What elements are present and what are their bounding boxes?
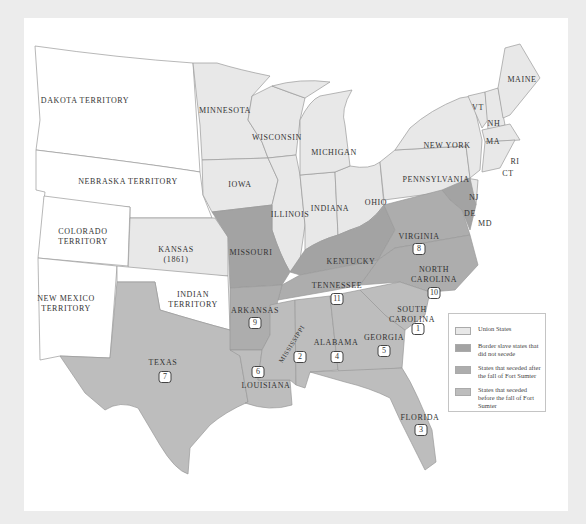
label-new-york: NEW YORK (423, 141, 470, 151)
legend-item-union: Union States (455, 325, 544, 335)
legend-item-seceded-after: States that seceded after the fall of Fo… (455, 364, 544, 380)
label-michigan: MICHIGAN (311, 148, 357, 158)
label-georgia: GEORGIA (364, 333, 404, 343)
secession-number-virginia: 8 (413, 243, 426, 255)
label-missouri: MISSOURI (229, 248, 272, 258)
label-alabama: ALABAMA (314, 338, 359, 348)
label-nebraska-territory: NEBRASKA TERRITORY (78, 177, 178, 187)
label-kansas: KANSAS(1861) (158, 245, 194, 265)
civil-war-states-map (0, 0, 586, 524)
label-illinois: ILLINOIS (271, 210, 310, 220)
label-louisiana: LOUISIANA (242, 381, 291, 391)
label-texas: TEXAS (149, 358, 178, 368)
label-new-jersey: NJ (469, 193, 479, 203)
label-florida: FLORIDA (401, 413, 440, 423)
secession-number-texas: 7 (159, 371, 172, 383)
label-virginia: VIRGINIA (398, 232, 439, 242)
label-tennessee: TENNESSEE (312, 281, 362, 291)
label-north-carolina: NORTHCAROLINA (411, 265, 457, 285)
legend-item-border-slave: Border slave states that did not secede (455, 342, 544, 358)
secession-number-alabama: 4 (331, 351, 344, 363)
label-colorado-territory: COLORADOTERRITORY (58, 227, 108, 247)
label-kentucky: KENTUCKY (327, 257, 376, 267)
label-wisconsin: WISCONSIN (252, 133, 302, 143)
label-connecticut: CT (502, 169, 513, 179)
secession-number-south-carolina: 1 (412, 323, 425, 335)
legend-swatch-border-slave (455, 344, 471, 352)
label-new-mexico-territory: NEW MEXICOTERRITORY (37, 294, 95, 314)
label-ohio: OHIO (365, 198, 387, 208)
secession-number-north-carolina: 10 (428, 287, 441, 299)
legend-item-seceded-before: States that seceded before the fall of F… (455, 386, 544, 410)
label-arkansas: ARKANSAS (231, 306, 279, 316)
label-minnesota: MINNESOTA (199, 106, 251, 116)
label-indian-territory: INDIANTERRITORY (168, 290, 218, 310)
legend-label-seceded-after: States that seceded after the fall of Fo… (478, 364, 544, 380)
label-iowa: IOWA (228, 180, 251, 190)
secession-number-tennessee: 11 (331, 293, 344, 305)
label-maryland: MD (478, 219, 492, 229)
label-indiana: INDIANA (311, 204, 349, 214)
label-new-hampshire: NH (488, 119, 501, 129)
secession-number-georgia: 5 (378, 345, 391, 357)
legend-swatch-seceded-before (455, 388, 471, 396)
legend-label-border-slave: Border slave states that did not secede (478, 342, 544, 358)
label-pennsylvania: PENNSYLVANIA (402, 175, 469, 185)
legend-label-union: Union States (478, 325, 544, 333)
label-maine: MAINE (507, 75, 536, 85)
legend-label-seceded-before: States that seceded before the fall of F… (478, 386, 544, 410)
secession-number-mississippi: 2 (294, 351, 307, 363)
secession-number-louisiana: 6 (252, 366, 265, 378)
legend-swatch-seceded-after (455, 366, 471, 374)
secession-number-arkansas: 9 (249, 317, 262, 329)
label-rhode-island: RI (510, 157, 519, 167)
map-legend: Union States Border slave states that di… (448, 313, 546, 412)
secession-number-florida: 3 (415, 424, 428, 436)
label-massachusetts: MA (486, 137, 500, 147)
label-vermont: VT (472, 103, 484, 113)
legend-swatch-union (455, 327, 471, 335)
label-delaware: DE (464, 209, 476, 219)
label-south-carolina: SOUTHCAROLINA (389, 305, 435, 325)
label-dakota-territory: DAKOTA TERRITORY (41, 96, 129, 106)
